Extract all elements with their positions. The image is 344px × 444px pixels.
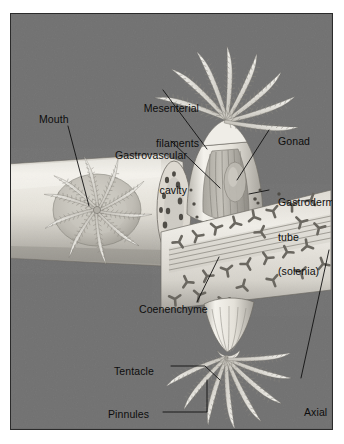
label-gastrodermal-tube-line3: (solenia) [278,266,333,278]
label-gastrovascular-cavity: Gastrovascular cavity [69,127,187,219]
label-gastrodermal-tube-line1: Gastrodermal [278,197,333,209]
label-axial-rod-line1: Axial [304,407,327,419]
illustration-plate: Mouth Mesenterial filaments Gastrovascul… [10,13,333,430]
figure-container: Mouth Mesenterial filaments Gastrovascul… [0,0,344,444]
label-tentacle: Tentacle [114,366,154,378]
label-pinnules: Pinnules [108,409,149,421]
label-gonad: Gonad [278,136,310,148]
label-axial-rod: Axial rod [304,384,327,430]
label-gastrodermal-tube: Gastrodermal tube (solenia) [278,174,333,301]
label-gastrodermal-tube-line2: tube [278,232,333,244]
label-gastrovascular-cavity-line1: Gastrovascular [69,150,187,162]
label-mesenterial-filaments-line1: Mesenterial [99,103,199,115]
label-coenenchyme: Coenenchyme [139,304,208,316]
label-mouth: Mouth [39,114,69,126]
label-gastrovascular-cavity-line2: cavity [69,185,187,197]
